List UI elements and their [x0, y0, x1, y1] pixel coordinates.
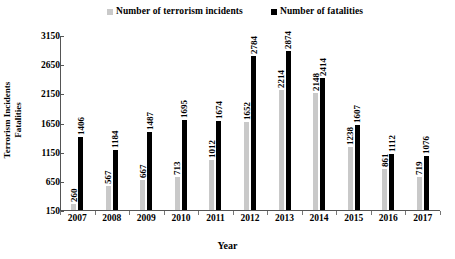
y-tick-mark	[60, 36, 64, 37]
bar-fatalities-2011: 1674	[216, 121, 221, 210]
bar-value-label: 2414	[318, 58, 327, 76]
bar-fatalities-2009: 1487	[147, 132, 152, 210]
bar-value-label: 1607	[353, 105, 362, 123]
x-axis-line	[60, 210, 440, 211]
bar-fatalities-2010: 1695	[182, 120, 187, 210]
bar-incidents-2007: 260	[71, 204, 76, 210]
y-tick-label: 1650	[22, 119, 60, 129]
bar-value-label: 1695	[180, 100, 189, 118]
y-tick-mark	[60, 65, 64, 66]
bar-fatalities-2015: 1607	[355, 125, 360, 210]
legend-label-fatalities: Number of fatalities	[280, 6, 363, 17]
plot-area: 15065011501650215026503150 2601406567118…	[60, 36, 440, 211]
y-tick-label: 650	[22, 177, 60, 187]
bar-incidents-2008: 567	[106, 186, 111, 210]
y-tick-label: 2150	[22, 89, 60, 99]
y-tick-label: 3150	[22, 31, 60, 41]
legend-label-incidents: Number of terrorism incidents	[116, 6, 243, 17]
bar-value-label: 861	[380, 153, 389, 167]
bar-value-label: 719	[415, 161, 424, 175]
bar-incidents-2017: 719	[417, 177, 422, 210]
bar-value-label: 667	[138, 164, 147, 178]
chart-container: Number of terrorism incidents Number of …	[0, 0, 455, 259]
legend-swatch-fatalities	[271, 9, 277, 15]
bar-value-label: 2874	[284, 31, 293, 49]
bar-value-label: 1076	[422, 136, 431, 154]
bar-fatalities-2017: 1076	[424, 156, 429, 210]
legend-item-incidents: Number of terrorism incidents	[107, 6, 243, 17]
y-tick-mark	[60, 182, 64, 183]
bar-value-label: 1406	[76, 117, 85, 135]
bar-value-label: 1652	[242, 102, 251, 120]
bar-value-label: 2214	[277, 70, 286, 88]
bar-incidents-2015: 1238	[348, 147, 353, 210]
y-tick-label: 2650	[22, 60, 60, 70]
bar-incidents-2016: 861	[382, 169, 387, 210]
x-axis-title: Year	[0, 240, 455, 251]
bar-fatalities-2008: 1184	[113, 150, 118, 210]
bar-incidents-2013: 2214	[279, 90, 284, 210]
bar-incidents-2009: 667	[140, 180, 145, 210]
bar-value-label: 1184	[111, 130, 120, 148]
bar-value-label: 1238	[346, 127, 355, 145]
bar-fatalities-2012: 2784	[251, 56, 256, 210]
bar-value-label: 1112	[387, 135, 396, 152]
bar-fatalities-2007: 1406	[78, 137, 83, 210]
y-tick-mark	[60, 124, 64, 125]
bar-value-label: 260	[69, 188, 78, 202]
y-axis-title: Terrorism Incidents Fatalities	[2, 82, 23, 159]
y-tick-mark	[60, 153, 64, 154]
y-axis-title-line1: Terrorism Incidents	[2, 82, 12, 159]
y-axis-title-wrapper: Terrorism Incidents Fatalities	[2, 60, 22, 180]
bar-value-label: 2784	[249, 36, 258, 54]
bar-value-label: 2148	[311, 73, 320, 91]
bar-value-label: 567	[104, 170, 113, 184]
y-tick-mark	[60, 94, 64, 95]
y-tick-label: 1150	[22, 148, 60, 158]
bar-fatalities-2013: 2874	[286, 51, 291, 210]
bar-value-label: 713	[173, 162, 182, 176]
bar-value-label: 1012	[207, 140, 216, 158]
chart-legend: Number of terrorism incidents Number of …	[0, 6, 455, 22]
x-category-label-2017: 2017	[401, 213, 445, 223]
bar-incidents-2014: 2148	[313, 93, 318, 210]
bar-incidents-2011: 1012	[209, 160, 214, 210]
bar-value-label: 1674	[214, 101, 223, 119]
legend-swatch-incidents	[107, 9, 113, 15]
legend-item-fatalities: Number of fatalities	[271, 6, 363, 17]
bar-incidents-2012: 1652	[244, 122, 249, 210]
bar-fatalities-2016: 1112	[389, 154, 394, 210]
y-axis-title-line2: Fatalities	[12, 102, 22, 138]
bar-value-label: 1487	[145, 112, 154, 130]
bar-incidents-2010: 713	[175, 177, 180, 210]
bar-fatalities-2014: 2414	[320, 78, 325, 210]
